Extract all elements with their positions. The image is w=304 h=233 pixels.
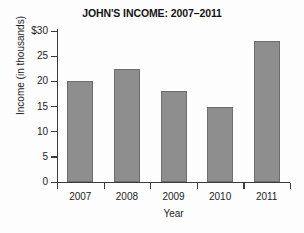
x-axis-tick-label: 2010 [197,191,243,202]
x-axis-tick-label: 2011 [244,191,290,202]
y-axis-tick-label: 25 [37,51,48,61]
x-axis-tick-label: 2008 [104,191,150,202]
y-axis-tick-label: 5 [42,152,48,162]
bar-2010 [207,107,233,183]
bar-2011 [254,41,280,182]
bar-2009 [161,91,187,182]
bar-2008 [114,69,140,182]
plot-area [57,31,290,182]
y-axis-tick-label: 20 [37,76,48,86]
bar-2007 [67,81,93,182]
x-axis-tick-label: 2009 [151,191,197,202]
x-axis-tick [243,183,244,189]
y-axis-tick-label: 0 [42,177,48,187]
y-axis-tick-label: 10 [37,127,48,137]
chart-title: JOHN'S INCOME: 2007–2011 [0,7,304,19]
x-axis-tick [150,183,151,189]
y-axis-title: Income (in thousands) [15,6,26,126]
x-axis-line [56,182,290,183]
x-axis-tick [57,183,58,189]
y-axis-tick-label: $30 [31,26,48,36]
x-axis-tick-label: 2007 [57,191,103,202]
x-axis-title: Year [57,208,290,219]
bar-chart-figure: JOHN'S INCOME: 2007–2011 Income (in thou… [0,0,304,233]
y-axis-tick-label: 15 [37,102,48,112]
x-axis-tick [104,183,105,189]
x-axis-tick [290,183,291,189]
x-axis-tick [197,183,198,189]
